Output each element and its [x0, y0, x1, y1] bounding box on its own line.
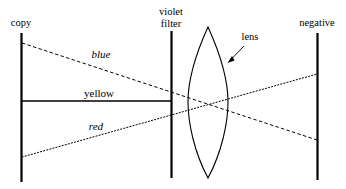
negative-label: negative [299, 17, 335, 28]
violet-filter-label-line1: violet [159, 6, 183, 17]
optics-diagram: copy violet filter lens negative blue ye… [0, 0, 346, 189]
red-ray-line [22, 74, 317, 157]
lens-shape [188, 27, 228, 178]
blue-ray-label: blue [92, 48, 111, 60]
red-ray-label: red [89, 120, 104, 132]
copy-label: copy [11, 17, 32, 28]
blue-ray-line [22, 43, 317, 140]
lens-label: lens [242, 31, 259, 42]
violet-filter-label-line2: filter [161, 18, 182, 29]
optics-diagram-canvas: copy violet filter lens negative blue ye… [0, 0, 346, 189]
yellow-ray-label: yellow [84, 87, 114, 99]
